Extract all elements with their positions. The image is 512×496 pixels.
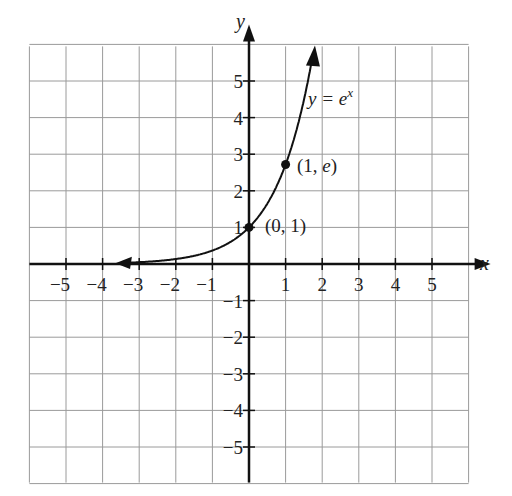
svg-text:−3: −3 xyxy=(223,364,243,385)
svg-text:3: 3 xyxy=(354,274,364,295)
curve-label: y = ex xyxy=(306,85,353,109)
svg-text:−5: −5 xyxy=(223,437,243,458)
svg-text:−1: −1 xyxy=(223,291,243,312)
x-axis-label: x xyxy=(479,252,489,274)
svg-text:5: 5 xyxy=(234,71,244,92)
exponential-graph: −5−4−3−2−11234554321−1−2−3−4−5 x y y = e… xyxy=(0,0,512,496)
svg-text:4: 4 xyxy=(234,108,244,129)
y-axis-label: y xyxy=(234,10,245,33)
svg-text:−2: −2 xyxy=(223,327,243,348)
svg-text:2: 2 xyxy=(317,274,327,295)
svg-text:−2: −2 xyxy=(160,274,180,295)
axes xyxy=(29,24,490,482)
svg-text:−5: −5 xyxy=(50,274,70,295)
svg-text:3: 3 xyxy=(234,144,244,165)
point-label-1-e: (1, e) xyxy=(297,155,337,177)
svg-text:−3: −3 xyxy=(123,274,143,295)
svg-text:−1: −1 xyxy=(196,274,216,295)
svg-text:−4: −4 xyxy=(223,400,244,421)
svg-text:1: 1 xyxy=(281,274,291,295)
svg-text:−4: −4 xyxy=(86,274,107,295)
svg-text:5: 5 xyxy=(427,274,437,295)
point-label-0-1: (0, 1) xyxy=(265,215,306,237)
svg-text:4: 4 xyxy=(391,274,401,295)
svg-text:2: 2 xyxy=(234,181,244,202)
